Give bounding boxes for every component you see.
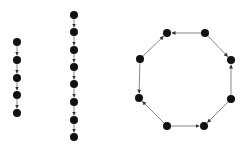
path-8-node — [70, 63, 78, 71]
graph-canvas — [0, 0, 249, 149]
path-8-node — [70, 28, 78, 36]
path-8-node — [70, 80, 78, 88]
path-8-node — [70, 133, 78, 141]
cycle-8-node — [163, 122, 171, 130]
path-5-node — [13, 74, 21, 82]
path-8-node — [70, 11, 78, 19]
path-8-node — [70, 116, 78, 124]
cycle-8-node — [136, 55, 144, 63]
cycle-8-edge — [139, 63, 140, 94]
path-8-node — [70, 46, 78, 54]
cycle-8-node — [200, 122, 208, 130]
cycle-8-edge — [143, 36, 164, 56]
path-8-node — [70, 98, 78, 106]
cycle-8-node — [227, 56, 235, 64]
cycle-8-node — [135, 94, 143, 102]
path-5-node — [13, 38, 21, 46]
path-5-node — [13, 91, 21, 99]
edges-layer — [17, 19, 231, 133]
path-5-node — [13, 109, 21, 117]
cycle-8-node — [201, 29, 209, 37]
cycle-8-edge — [207, 102, 228, 123]
cycle-8-edge — [208, 36, 228, 57]
cycle-8-edge — [142, 101, 164, 123]
path-5-node — [13, 56, 21, 64]
cycle-8-node — [163, 29, 171, 37]
nodes-layer — [13, 11, 235, 141]
cycle-8-node — [227, 95, 235, 103]
